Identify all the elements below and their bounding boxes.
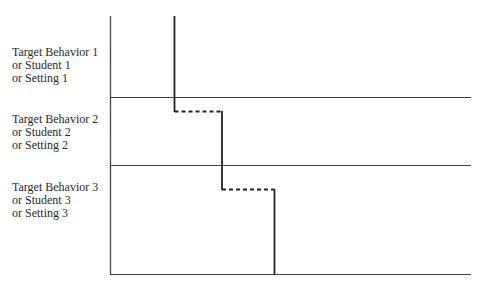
baseline-diagram bbox=[0, 0, 481, 288]
